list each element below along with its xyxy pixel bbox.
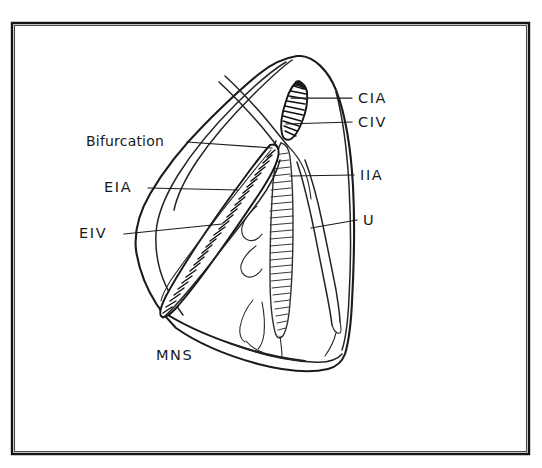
anatomical-figure-container: CIA CIV IIA U Bifurcation EIA EIV MNS xyxy=(0,0,542,468)
anatomical-diagram-svg: CIA CIV IIA U Bifurcation EIA EIV MNS xyxy=(0,0,542,468)
label-iia: IIA xyxy=(360,167,383,183)
label-eiv: EIV xyxy=(79,225,107,241)
label-eia: EIA xyxy=(104,179,132,195)
label-civ: CIV xyxy=(358,114,387,130)
labels-bottom-group: MNS xyxy=(156,347,193,363)
label-bifurcation: Bifurcation xyxy=(86,133,164,149)
label-u: U xyxy=(363,212,375,228)
label-cia: CIA xyxy=(358,90,387,106)
label-mns: MNS xyxy=(156,347,193,363)
